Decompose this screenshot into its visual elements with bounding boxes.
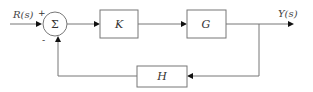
feedback-to-h-arrowhead: [187, 73, 193, 79]
k-to-g-arrowhead: [181, 21, 187, 27]
input-signal-label: R(s): [12, 9, 34, 20]
feedback-return-wire: [58, 42, 137, 76]
feedback-to-sum-arrowhead: [55, 36, 61, 42]
plus-sign: +: [38, 8, 46, 18]
sum-to-k-arrowhead: [94, 21, 100, 27]
output-arrowhead: [288, 21, 294, 27]
block-diagram: R(s) Σ + - K G Y(s) H: [0, 0, 313, 92]
block-g-label: G: [202, 18, 211, 31]
output-signal-label: Y(s): [278, 8, 298, 19]
input-arrowhead: [36, 21, 42, 27]
minus-sign: -: [42, 35, 45, 45]
block-k-label: K: [114, 18, 124, 31]
summing-symbol: Σ: [51, 18, 59, 31]
block-h-label: H: [156, 70, 167, 83]
